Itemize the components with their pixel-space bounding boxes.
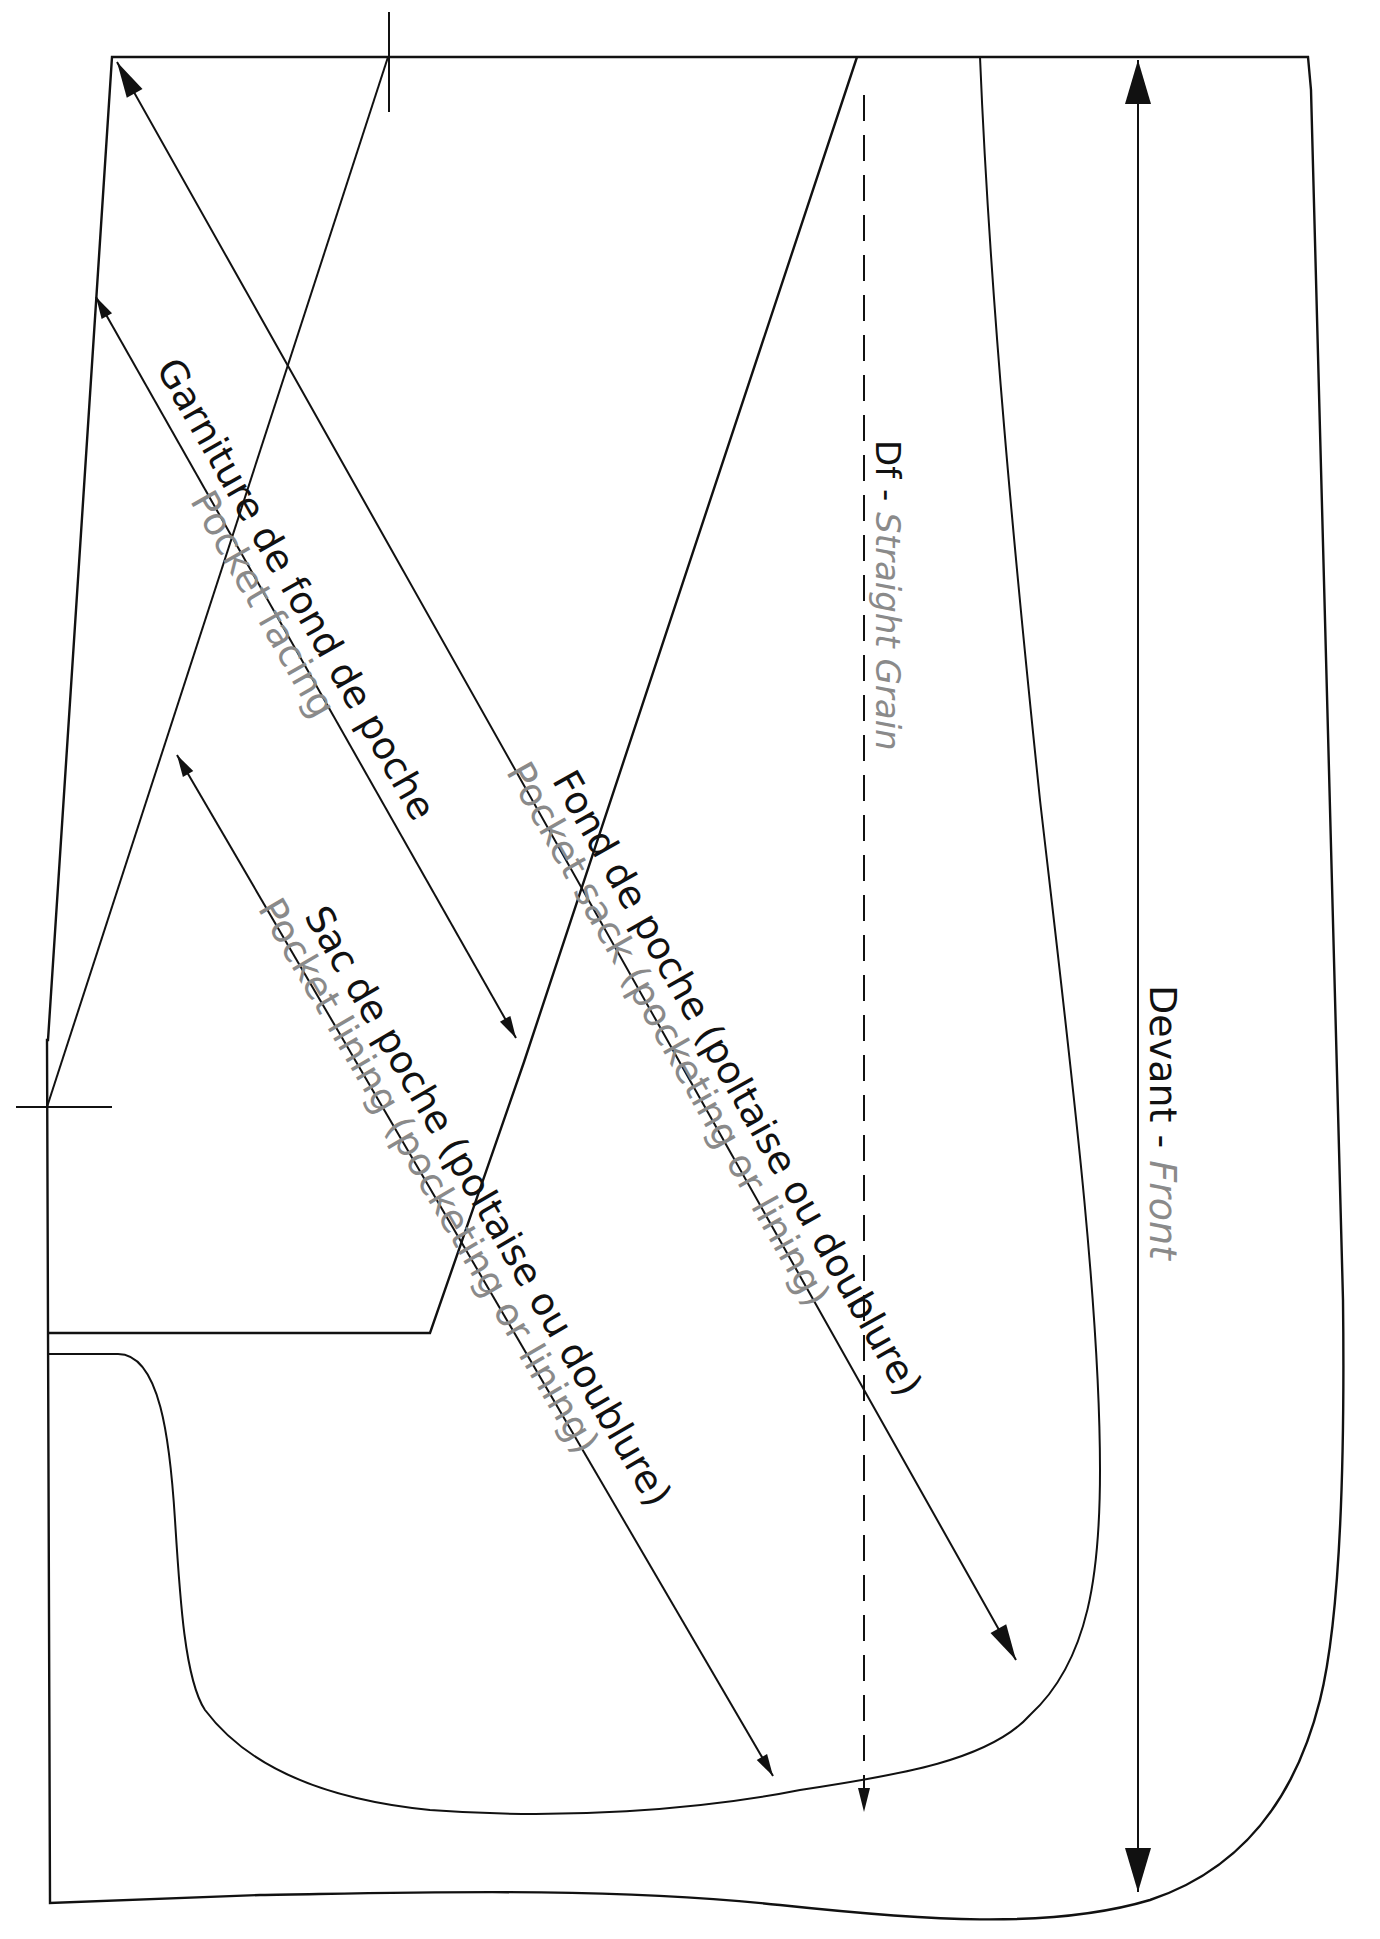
- straight-grain-arrow: [858, 95, 870, 1812]
- pocket-sack-label-fr: Fond de poche (poltaise ou doublure): [544, 763, 931, 1404]
- arrowhead-icon: [757, 1754, 773, 1776]
- pocket-facing-label-fr: Garniture de fond de poche: [148, 351, 445, 828]
- arrowhead-icon: [1125, 60, 1151, 104]
- grain-label-en: Straight Grain: [868, 512, 908, 751]
- arrowhead-icon: [500, 1016, 516, 1038]
- pocket-sack-outline: [47, 57, 1100, 1814]
- grain-label-fr: Df -: [868, 440, 908, 512]
- pocket-sack-label-en: Pocket sack (pocketing or lining): [498, 754, 839, 1313]
- front-grainline-arrow: [1125, 60, 1151, 1892]
- grain-label: Df - Straight Grain: [868, 440, 908, 751]
- front-label-en: Front: [1141, 1160, 1185, 1262]
- arrowhead-icon: [117, 62, 142, 98]
- pocket-lining-label-en: Pocket lining (pocketing or lining): [249, 891, 608, 1462]
- pattern-canvas: Devant - Front Df - Straight Grain Garni…: [0, 0, 1380, 1939]
- front-label: Devant - Front: [1141, 985, 1185, 1262]
- arrowhead-icon: [858, 1788, 870, 1812]
- front-label-fr: Devant -: [1141, 985, 1185, 1160]
- arrowhead-icon: [991, 1624, 1016, 1660]
- arrowhead-icon: [96, 297, 112, 319]
- arrowhead-icon: [177, 755, 193, 777]
- arrowhead-icon: [1125, 1848, 1151, 1892]
